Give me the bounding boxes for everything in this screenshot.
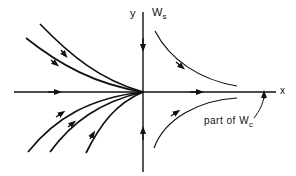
- center-manifold-annotation: part of Wc: [204, 116, 254, 129]
- x-axis-label: x: [280, 86, 285, 96]
- stable-manifold-label: Ws: [152, 7, 166, 21]
- y-axis-label: y: [130, 8, 136, 19]
- trajectory: [50, 92, 143, 152]
- trajectory: [155, 31, 237, 86]
- annotation-pointer: [254, 96, 264, 118]
- phase-portrait: [0, 0, 296, 176]
- trajectory: [26, 38, 143, 92]
